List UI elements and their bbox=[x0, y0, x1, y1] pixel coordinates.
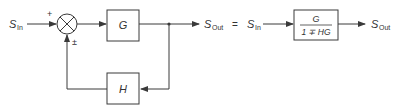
svg-text:G: G bbox=[119, 19, 128, 31]
equivalent-block: G 1 ∓ HG bbox=[294, 10, 338, 40]
feedback-block-h: H bbox=[107, 73, 139, 104]
input-label-left: S In bbox=[9, 18, 23, 31]
plus-minus-sign: ± bbox=[72, 37, 77, 47]
svg-text:S: S bbox=[371, 18, 379, 30]
svg-text:In: In bbox=[17, 24, 23, 31]
block-diagram: S In + ± G H S Out = S In G bbox=[0, 0, 404, 109]
svg-text:In: In bbox=[255, 24, 261, 31]
svg-text:S: S bbox=[247, 18, 255, 30]
svg-text:Out: Out bbox=[379, 24, 390, 31]
svg-text:H: H bbox=[119, 83, 127, 95]
summing-junction bbox=[57, 14, 77, 34]
svg-text:Out: Out bbox=[212, 24, 223, 31]
forward-block-g: G bbox=[107, 10, 139, 41]
block-numerator: G bbox=[312, 14, 319, 24]
output-label-left: S Out bbox=[204, 18, 223, 31]
svg-text:S: S bbox=[9, 18, 17, 30]
equals-sign: = bbox=[232, 19, 238, 30]
feedback-line-down bbox=[141, 24, 169, 89]
input-label-right: S In bbox=[247, 18, 261, 31]
svg-text:S: S bbox=[204, 18, 212, 30]
output-label-right: S Out bbox=[371, 18, 390, 31]
block-denominator: 1 ∓ HG bbox=[301, 27, 331, 37]
plus-sign: + bbox=[47, 9, 52, 19]
